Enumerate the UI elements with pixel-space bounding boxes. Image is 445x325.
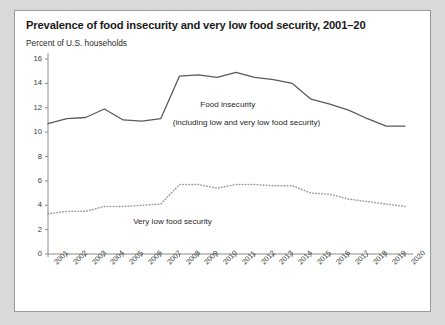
y-tick-label: 4 xyxy=(15,200,42,209)
chart-card: Prevalence of food insecurity and very l… xyxy=(14,10,431,312)
y-tick-label: 6 xyxy=(15,176,42,185)
annotation-very-low-food-security: Very low food security xyxy=(133,217,212,226)
y-tick-label: 0 xyxy=(15,249,42,258)
y-tick-label: 8 xyxy=(15,152,42,161)
line-chart xyxy=(15,11,432,313)
y-tick-label: 10 xyxy=(15,127,42,136)
y-tick-label: 12 xyxy=(15,103,42,112)
chart-plot-area xyxy=(15,11,432,313)
y-tick-label: 16 xyxy=(15,54,42,63)
annotation-food-insecurity-line2: (including low and very low food securit… xyxy=(173,118,321,127)
series-line-2 xyxy=(48,185,405,214)
y-tick-label: 2 xyxy=(15,225,42,234)
y-tick-label: 14 xyxy=(15,78,42,87)
annotation-food-insecurity-line1: Food insecurity xyxy=(200,100,255,109)
